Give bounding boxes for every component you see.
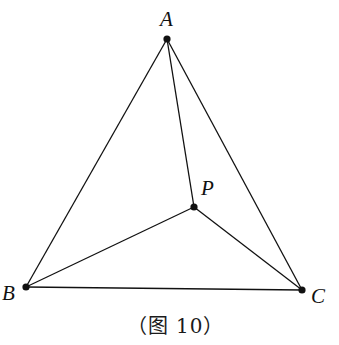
point-b-dot — [22, 283, 29, 290]
label-c: C — [311, 284, 326, 308]
triangle-diagram: A B C P — [0, 0, 339, 345]
point-p-dot — [190, 203, 197, 210]
label-p: P — [200, 176, 214, 200]
label-a: A — [158, 7, 173, 31]
figure-caption: （图 10） — [6, 310, 339, 339]
point-a-dot — [163, 35, 170, 42]
label-b: B — [2, 281, 15, 305]
segment-cp — [194, 207, 302, 290]
segment-bc — [26, 287, 302, 290]
segment-bp — [26, 207, 194, 287]
segment-ab — [26, 39, 167, 287]
point-c-dot — [298, 286, 305, 293]
